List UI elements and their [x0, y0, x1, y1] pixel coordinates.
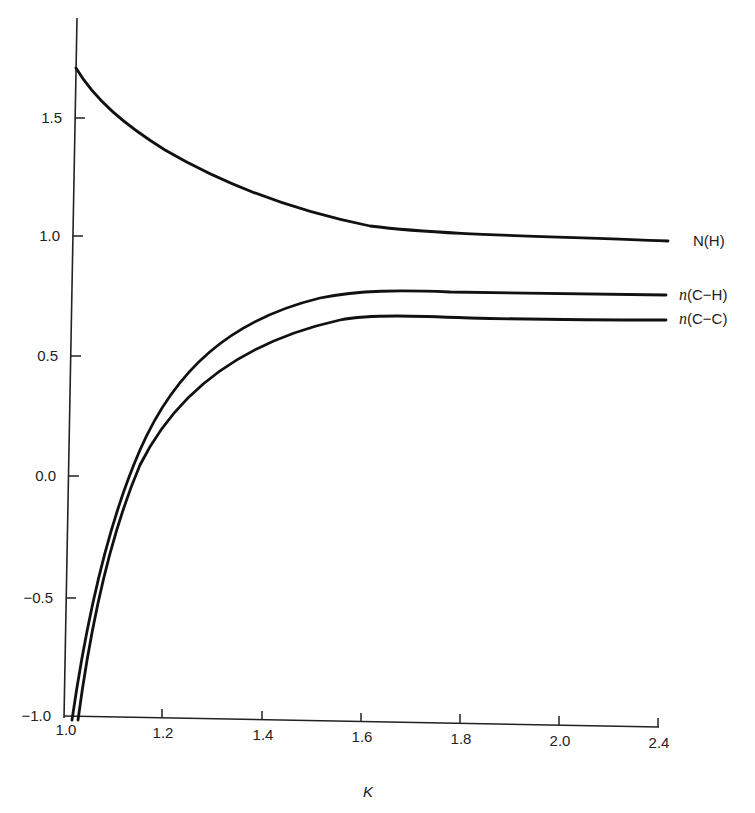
x-tick-label: 2.4: [639, 734, 679, 751]
x-ticks: [162, 709, 658, 727]
series-label-nch: n(C−H): [679, 286, 727, 304]
series-label-ncc-text: (C−C): [687, 310, 727, 327]
series-line-nch: [72, 291, 666, 720]
y-ticks: [66, 118, 85, 598]
series-label-nh: N(H): [693, 232, 725, 249]
x-axis-title: K: [363, 783, 373, 800]
y-tick-label: 0.0: [6, 467, 56, 484]
series-label-nch-text: (C−H): [687, 286, 727, 303]
y-tick-label: 1.5: [12, 109, 62, 126]
x-tick-label: 1.4: [243, 726, 283, 743]
x-tick-label: 1.6: [342, 728, 382, 745]
series-label-ncc: n(C−C): [679, 310, 727, 328]
series-label-ncc-italic: n: [679, 310, 687, 327]
plot-area: [0, 0, 755, 813]
x-tick-label: 2.0: [540, 732, 580, 749]
y-tick-label: −0.5: [3, 589, 53, 606]
x-tick-label: 1.8: [441, 730, 481, 747]
y-tick-label: 0.5: [8, 347, 58, 364]
x-tick-label: 1.0: [46, 721, 86, 738]
series-label-nch-italic: n: [679, 286, 687, 303]
series-line-nh: [76, 68, 668, 241]
y-tick-label: 1.0: [10, 227, 60, 244]
x-tick-label: 1.2: [143, 724, 183, 741]
y-axis: [64, 18, 77, 718]
series-line-ncc: [78, 316, 666, 720]
y-tick-label: −1.0: [1, 707, 51, 724]
